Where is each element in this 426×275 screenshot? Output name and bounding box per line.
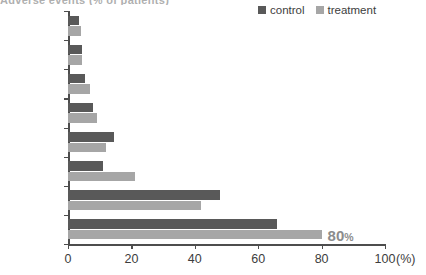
x-axis-tick-label: 0	[65, 252, 72, 266]
bar-control	[68, 103, 93, 113]
bar-control	[68, 132, 114, 142]
y-axis-tick	[64, 215, 68, 216]
bar-treatment	[68, 113, 97, 123]
bar-treatment	[68, 143, 106, 153]
y-axis-tick	[64, 40, 68, 41]
bar-control	[68, 74, 85, 84]
bar-group: Headache	[68, 40, 385, 69]
bar-treatment	[68, 55, 82, 65]
x-axis-tick	[195, 244, 196, 249]
y-axis-tick	[64, 186, 68, 187]
annotation-value: 80	[328, 227, 345, 244]
x-axis-tick-label: 100	[375, 252, 396, 266]
bar-control	[68, 219, 277, 229]
bar-control	[68, 161, 103, 171]
bar-treatment	[68, 172, 135, 182]
y-axis-tick	[64, 69, 68, 70]
x-axis-tick	[258, 244, 259, 249]
x-axis-tick	[68, 244, 69, 249]
plot-area: VomittingHeadacheDyspneaFatigueNauseaAne…	[68, 11, 385, 244]
bar-control	[68, 45, 82, 55]
x-axis-unit-label: (%)	[396, 252, 415, 266]
x-axis-tick-label: 40	[188, 252, 202, 266]
bar-control	[68, 16, 79, 26]
x-axis-tick-label: 60	[251, 252, 265, 266]
bar-group: Anemia	[68, 157, 385, 186]
bar-group: Dyspnea	[68, 69, 385, 98]
x-axis-tick	[322, 244, 323, 249]
bar-group: Diarrhea	[68, 186, 385, 215]
bar-treatment	[68, 230, 322, 240]
x-axis-tick	[131, 244, 132, 249]
bar-treatment	[68, 84, 90, 94]
bar-treatment	[68, 201, 201, 211]
x-axis-tick-label: 80	[315, 252, 329, 266]
bar-group: Vomitting	[68, 11, 385, 40]
bar-control	[68, 190, 220, 200]
bar-group: Nausea	[68, 128, 385, 157]
bar-treatment	[68, 26, 81, 36]
bar-chart: Adverse events (% of patients) control t…	[0, 0, 426, 275]
annotation-unit: %	[344, 231, 353, 243]
value-annotation: 80%	[328, 228, 354, 244]
y-axis-tick	[64, 128, 68, 129]
x-axis-tick	[385, 244, 386, 249]
y-axis-tick	[64, 98, 68, 99]
y-axis-tick	[64, 11, 68, 12]
bar-group: Fatigue	[68, 98, 385, 127]
x-axis-tick-label: 20	[124, 252, 138, 266]
y-axis-tick	[64, 157, 68, 158]
